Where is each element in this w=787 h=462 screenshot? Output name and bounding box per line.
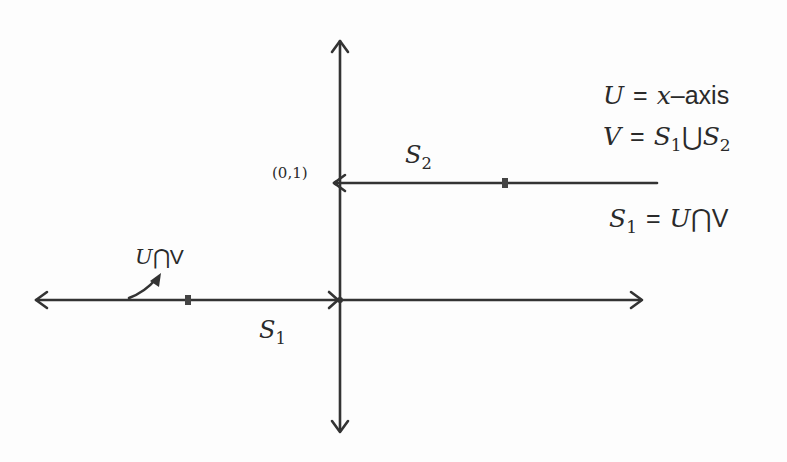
s2-label-var: S <box>405 141 421 169</box>
legend-v-eq: = <box>630 122 645 150</box>
legend-u-var: x <box>657 81 671 110</box>
legend-u-rest: –axis <box>671 81 729 109</box>
legend-line-s1: S1=U⋂V <box>609 206 728 236</box>
s1-label: S1 <box>259 318 286 347</box>
legend-v-sub2: 2 <box>720 135 731 155</box>
s1-label-var: S <box>259 316 275 344</box>
intersection-label-u: U <box>135 245 153 269</box>
point-0-1 <box>334 181 339 186</box>
point-label-0-1: (0,1) <box>272 166 308 181</box>
s1-label-sub: 1 <box>275 329 285 348</box>
legend-v-s2: S <box>703 122 720 151</box>
legend-u-eq: = <box>633 81 648 109</box>
intersection-label-v: V <box>170 245 184 268</box>
legend-line-u: U=x–axis <box>603 83 729 108</box>
diagram-canvas: (0,1) S2 S1 U⋂V U=x–axis V=S1⋃S2 S1=U⋂V <box>0 0 787 462</box>
legend-v-s1: S <box>654 122 671 151</box>
legend-v-cup: ⋃ <box>682 122 703 150</box>
legend-s1-eq: = <box>646 204 661 232</box>
intersection-label-cap: ⋂ <box>153 245 170 268</box>
legend-s1-cap: ⋂ <box>691 204 712 232</box>
intersection-label: U⋂V <box>135 246 184 268</box>
s2-tick-mark <box>502 178 508 188</box>
s2-label: S2 <box>405 143 432 172</box>
legend-s1-u: U <box>670 204 691 233</box>
s2-label-sub: 2 <box>421 154 431 173</box>
legend-s1-sub: 1 <box>626 217 637 237</box>
origin-point <box>337 297 343 303</box>
legend-s1-v: V <box>712 204 729 232</box>
s1-tick-mark <box>185 295 191 305</box>
legend-u-lhs: U <box>603 81 624 110</box>
legend-line-v: V=S1⋃S2 <box>603 124 731 154</box>
legend-v-lhs: V <box>603 122 621 151</box>
legend-s1-lhs: S <box>609 204 626 233</box>
legend-v-sub1: 1 <box>671 135 682 155</box>
